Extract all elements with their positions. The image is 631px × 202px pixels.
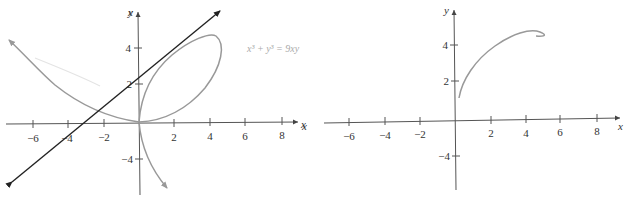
left-x-axis [6, 122, 298, 124]
left-xtick-label: −6 [27, 132, 39, 144]
right-y-axis-label: y [443, 4, 449, 16]
right-xtick-label: 4 [523, 127, 529, 139]
left-xtick-label: 2 [171, 131, 177, 143]
right-graph: −6 −4 −2 2 4 6 8 4 2 −4 y x x [301, 4, 623, 190]
left-xtick-label: 6 [242, 130, 248, 142]
left-y-axis [138, 12, 140, 195]
left-xtick-label: 8 [279, 129, 285, 141]
figure: −6 −4 −2 2 4 6 8 4 2 −4 x x y x³ + y³ = … [0, 0, 631, 202]
tangent-line [12, 11, 220, 182]
right-y-axis [454, 10, 456, 190]
folium-ghost-stroke [35, 58, 100, 86]
folium-branch-lower [139, 122, 167, 188]
left-graph: −6 −4 −2 2 4 6 8 4 2 −4 x x y x³ + y³ = … [6, 6, 306, 195]
right-xtick-label: −6 [343, 130, 355, 142]
upper-arc-curve [459, 31, 544, 98]
right-ytick-label: −4 [438, 150, 450, 162]
left-xtick-label: 4 [207, 130, 213, 142]
left-y-axis-label-2: y [127, 6, 133, 18]
right-xtick-label: 6 [557, 126, 563, 138]
right-ytick-label: 2 [444, 75, 450, 87]
folium-branch-left [9, 40, 139, 122]
left-ytick-label: −4 [121, 153, 133, 165]
equation-label: x³ + y³ = 9xy [246, 43, 300, 54]
right-x-axis-label: x [617, 120, 623, 132]
right-ytick-label: 4 [443, 39, 449, 51]
left-xtick-label: −2 [98, 131, 110, 143]
right-xtick-label: 8 [594, 125, 600, 137]
left-ytick-label: 4 [126, 42, 132, 54]
right-x-axis [324, 118, 620, 123]
right-xtick-label: 2 [488, 127, 494, 139]
right-xtick-label: −2 [414, 128, 426, 140]
folium-loop [139, 35, 221, 122]
right-xtick-label: −4 [379, 129, 391, 141]
right-x-axis-label-left: x [301, 120, 307, 132]
